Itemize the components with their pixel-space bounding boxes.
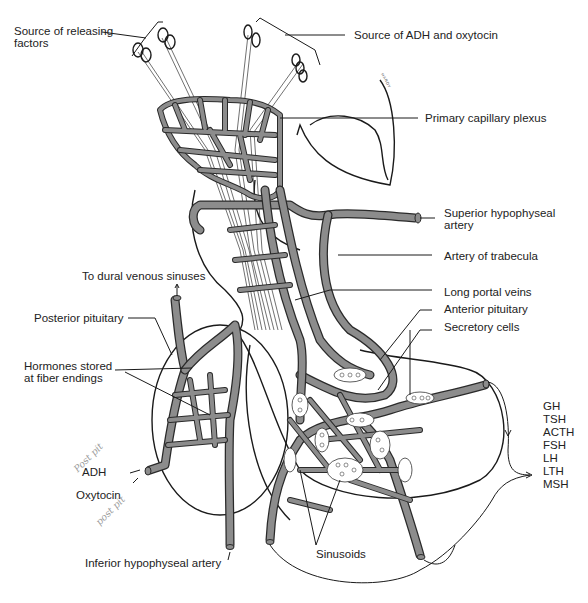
label-superior-hypophyseal-artery: Superior hypophyseal artery <box>444 207 564 231</box>
label-posterior-pituitary: Posterior pituitary <box>34 312 123 324</box>
label-hormones-stored: Hormones stored at fiber endings <box>24 360 119 384</box>
leader-lines <box>115 118 435 545</box>
label-anterior-pituitary: Anterior pituitary <box>444 303 528 315</box>
source-brackets <box>102 18 345 65</box>
label-secretory-cells: Secretory cells <box>444 321 519 333</box>
pituitary-portal-diagram: .v { fill: none; stroke: #2a2a2a; stroke… <box>0 0 588 603</box>
hormone-fsh: FSH <box>543 439 574 452</box>
hormone-lth: LTH <box>543 465 574 478</box>
diagram-artwork: .v { fill: none; stroke: #2a2a2a; stroke… <box>0 0 588 603</box>
hormone-gh: GH <box>543 400 574 413</box>
label-inferior-hypophyseal-artery: Inferior hypophyseal artery <box>85 557 221 569</box>
secretory-cells <box>284 368 434 482</box>
hormone-msh: MSH <box>543 478 574 491</box>
hormone-lh: LH <box>543 452 574 465</box>
hormone-acth: ACTH <box>543 426 574 439</box>
label-source-adh-oxytocin: Source of ADH and oxytocin <box>354 29 498 41</box>
anterior-hormone-list: GH TSH ACTH FSH LH LTH MSH <box>543 400 574 491</box>
label-source-releasing-factors: Source of releasing factors <box>14 25 114 49</box>
label-artery-of-trabecula: Artery of trabecula <box>444 250 538 262</box>
primary-capillary-plexus <box>160 99 280 198</box>
label-long-portal-veins: Long portal veins <box>444 286 532 298</box>
label-sinusoids: Sinusoids <box>316 548 366 560</box>
label-to-dural-venous-sinuses: To dural venous sinuses <box>82 270 205 282</box>
hormone-tsh: TSH <box>543 413 574 426</box>
long-portal-veins <box>230 190 370 420</box>
label-primary-capillary-plexus: Primary capillary plexus <box>425 112 546 124</box>
